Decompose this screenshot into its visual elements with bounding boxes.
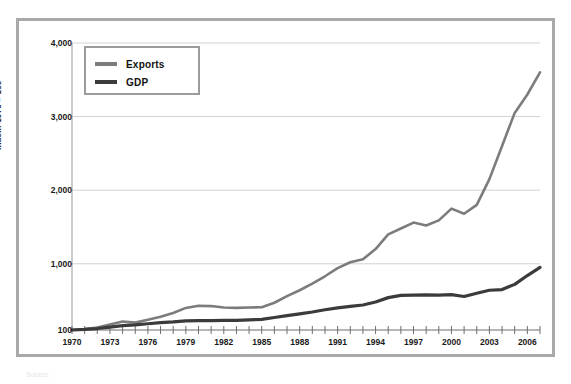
x-tick-label-2000: 2000	[442, 337, 461, 347]
x-tick-label-1982: 1982	[214, 337, 233, 347]
x-tick-label-1991: 1991	[328, 337, 347, 347]
legend-item-gdp: GDP	[95, 73, 198, 91]
series-line-exports	[72, 72, 540, 330]
x-tick-label-1994: 1994	[366, 337, 385, 347]
x-tick-label-1979: 1979	[176, 337, 195, 347]
y-tick-label-2000: 2,000	[51, 185, 72, 195]
data-series-group	[72, 72, 540, 330]
legend-swatch-exports	[95, 62, 117, 66]
x-tick-label-1985: 1985	[252, 337, 271, 347]
chart-plot-area: 1001,0002,0003,0004,000 1970197319761979…	[0, 0, 571, 384]
x-tick-label-1976: 1976	[138, 337, 157, 347]
x-tick-label-2006: 2006	[518, 337, 537, 347]
y-tick-label-1000: 1,000	[51, 259, 72, 269]
legend-label-gdp: GDP	[126, 77, 148, 88]
caption-fragment: Source:	[26, 371, 50, 380]
y-tick-label-3000: 3,000	[51, 112, 72, 122]
figure-page: 1001,0002,0003,0004,000 1970197319761979…	[0, 0, 571, 384]
x-tick-label-2003: 2003	[480, 337, 499, 347]
y-tick-label-100: 100	[58, 325, 72, 335]
y-axis-tick-labels: 1001,0002,0003,0004,000	[28, 0, 72, 384]
x-tick-label-1970: 1970	[63, 337, 82, 347]
x-tick-label-1988: 1988	[290, 337, 309, 347]
legend-item-exports: Exports	[95, 55, 198, 73]
chart-legend: Exports GDP	[84, 46, 200, 95]
y-tick-label-4000: 4,000	[51, 38, 72, 48]
legend-label-exports: Exports	[126, 59, 165, 70]
x-tick-label-1973: 1973	[100, 337, 119, 347]
y-axis-title: Index: 1970 = 100	[0, 30, 3, 150]
x-tick-label-1997: 1997	[404, 337, 423, 347]
legend-swatch-gdp	[95, 80, 117, 84]
